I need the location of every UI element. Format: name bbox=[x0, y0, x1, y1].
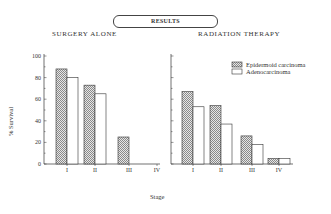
x-tick-label: III bbox=[249, 167, 255, 173]
y-tick-label: 0 bbox=[38, 161, 41, 167]
y-tick-label: 20 bbox=[35, 139, 41, 145]
y-tick-label: 80 bbox=[35, 75, 41, 81]
x-tick-label: I bbox=[66, 167, 68, 173]
surgery-chart: 020406080100IIIIIIIV bbox=[32, 53, 161, 173]
legend-swatch bbox=[232, 69, 242, 74]
y-tick-label: 100 bbox=[32, 53, 41, 59]
legend: Epidermoid carcinomaAdenocarcinoma bbox=[232, 61, 305, 75]
x-tick-label: IV bbox=[154, 167, 161, 173]
x-tick-label: II bbox=[93, 167, 97, 173]
legend-swatch bbox=[232, 62, 242, 67]
legend-label: Adenocarcinoma bbox=[246, 68, 291, 75]
chart-canvas: 020406080100IIIIIIIV IIIIIIIV Epidermoid… bbox=[0, 0, 331, 214]
bar-epidermoid bbox=[56, 69, 67, 164]
bar-epidermoid bbox=[118, 137, 129, 164]
bar-epidermoid bbox=[210, 106, 221, 164]
x-tick-label: IV bbox=[276, 167, 283, 173]
bar-adenocarcinoma bbox=[95, 94, 106, 164]
bar-epidermoid bbox=[241, 136, 252, 164]
y-tick-label: 60 bbox=[35, 96, 41, 102]
x-tick-label: I bbox=[192, 167, 194, 173]
bar-adenocarcinoma bbox=[279, 159, 290, 164]
legend-label: Epidermoid carcinoma bbox=[246, 61, 305, 68]
y-tick-label: 40 bbox=[35, 118, 41, 124]
x-tick-label: II bbox=[219, 167, 223, 173]
bar-epidermoid bbox=[84, 85, 95, 164]
bar-epidermoid bbox=[268, 159, 279, 164]
bar-adenocarcinoma bbox=[252, 145, 263, 164]
x-tick-label: III bbox=[126, 167, 132, 173]
bar-adenocarcinoma bbox=[221, 124, 232, 164]
bar-adenocarcinoma bbox=[67, 78, 78, 164]
bar-adenocarcinoma bbox=[193, 107, 204, 164]
bar-epidermoid bbox=[182, 92, 193, 164]
